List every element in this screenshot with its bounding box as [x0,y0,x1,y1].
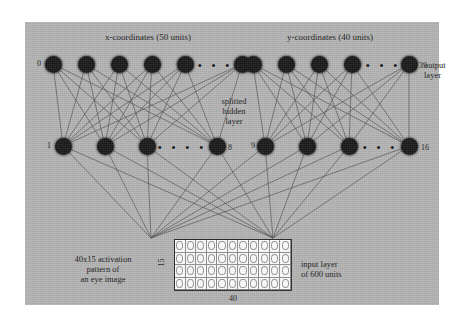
hidden-node-3[interactable] [139,138,156,155]
input-grid-cell[interactable] [207,253,218,266]
input-unit-circle [261,241,268,250]
hidden-layer-label-line3: layer [226,116,243,126]
input-grid-cell[interactable] [217,278,228,291]
input-grid-cell[interactable] [186,278,197,291]
x-output-start-label: 0 [37,60,41,68]
hidden-node-9[interactable] [257,138,274,155]
output-layer-label-line2: layer [424,70,441,80]
input-unit-circle [218,279,225,288]
input-grid-cell[interactable] [175,253,186,266]
output-node-y-1[interactable] [278,56,295,73]
input-unit-circle [239,254,246,263]
hidden-node-1[interactable] [55,138,72,155]
input-grid-cell[interactable] [207,265,218,278]
input-grid-cell[interactable] [228,253,239,266]
hidden-right-start-label: 9 [251,142,255,150]
hidden-node-11[interactable] [341,138,358,155]
input-grid-cell[interactable] [228,278,239,291]
hidden-layer-label-line2: hidden [222,106,245,116]
output-node-y-last[interactable] [401,56,418,73]
input-grid-cell[interactable] [207,278,218,291]
input-grid-cell[interactable] [280,265,291,278]
output-node-x-3[interactable] [144,56,161,73]
input-unit-circle [208,279,215,288]
input-grid-cell[interactable] [270,253,281,266]
input-grid-cell[interactable] [217,240,228,253]
input-grid-cell[interactable] [280,253,291,266]
input-grid-cell[interactable] [270,240,281,253]
input-grid-cell[interactable] [249,240,260,253]
input-grid-cell[interactable] [259,240,270,253]
hidden-node-10[interactable] [299,138,316,155]
input-grid-cell[interactable] [259,253,270,266]
input-unit-circle [187,266,194,275]
input-grid-cell[interactable] [270,265,281,278]
hidden-left-end-label: 8 [228,144,232,152]
output-node-y-2[interactable] [311,56,328,73]
input-unit-circle [250,254,257,263]
input-grid-cell[interactable] [186,265,197,278]
input-unit-circle [282,241,289,250]
output-node-y-0[interactable] [245,56,262,73]
input-grid-cell[interactable] [238,278,249,291]
input-unit-circle [229,254,236,263]
input-grid-cell[interactable] [249,253,260,266]
input-unit-circle [197,266,204,275]
input-unit-circle [239,241,246,250]
input-unit-circle [261,254,268,263]
input-grid-cell[interactable] [175,278,186,291]
input-grid-cell[interactable] [259,278,270,291]
input-grid-cell[interactable] [175,265,186,278]
input-grid-cell[interactable] [280,240,291,253]
activation-pattern-line2: pattern of [87,264,120,274]
input-grid-cell[interactable] [238,240,249,253]
input-unit-circle [208,241,215,250]
input-unit-circle [229,266,236,275]
input-grid-cell[interactable] [186,253,197,266]
input-grid-cell[interactable] [259,265,270,278]
input-grid-cell[interactable] [207,240,218,253]
input-grid-cell[interactable] [217,253,228,266]
hidden-node-8[interactable] [209,138,226,155]
input-grid-cell[interactable] [228,240,239,253]
hidden-node-16[interactable] [401,138,418,155]
input-grid-cell[interactable] [196,253,207,266]
activation-pattern-label: 40x15 activation pattern of an eye image [75,254,132,284]
input-unit-circle [187,254,194,263]
input-unit-circle [229,279,236,288]
output-node-x-4[interactable] [177,56,194,73]
input-unit-circle [271,279,278,288]
input-grid-cell[interactable] [249,278,260,291]
input-grid-cell[interactable] [238,253,249,266]
input-unit-circle [197,241,204,250]
input-unit-circle [218,241,225,250]
output-layer-label-line1: output [424,60,446,70]
input-unit-circle [218,254,225,263]
input-grid-cell[interactable] [217,265,228,278]
input-grid-cell[interactable] [186,240,197,253]
output-node-x-2[interactable] [111,56,128,73]
y-coordinates-heading: y-coordinates (40 units) [287,32,373,42]
input-layer-line1: input layer [301,259,338,269]
output-node-y-3[interactable] [344,56,361,73]
input-grid-cell[interactable] [196,278,207,291]
input-grid-cell[interactable] [228,265,239,278]
input-unit-circle [197,279,204,288]
input-unit-circle [208,266,215,275]
input-grid-cell[interactable] [196,265,207,278]
output-node-x-0[interactable] [45,56,62,73]
input-activation-grid[interactable] [174,239,292,291]
input-unit-circle [282,279,289,288]
input-grid-cell[interactable] [249,265,260,278]
input-unit-circle [176,279,183,288]
input-unit-circle [176,266,183,275]
input-grid-cell[interactable] [270,278,281,291]
output-node-x-1[interactable] [78,56,95,73]
input-grid-cell[interactable] [280,278,291,291]
input-unit-circle [187,241,194,250]
hidden-node-2[interactable] [97,138,114,155]
input-grid-cell[interactable] [238,265,249,278]
input-grid-cell[interactable] [175,240,186,253]
input-grid-cell[interactable] [196,240,207,253]
hidden-layer-label-line1: splitted [221,96,246,106]
